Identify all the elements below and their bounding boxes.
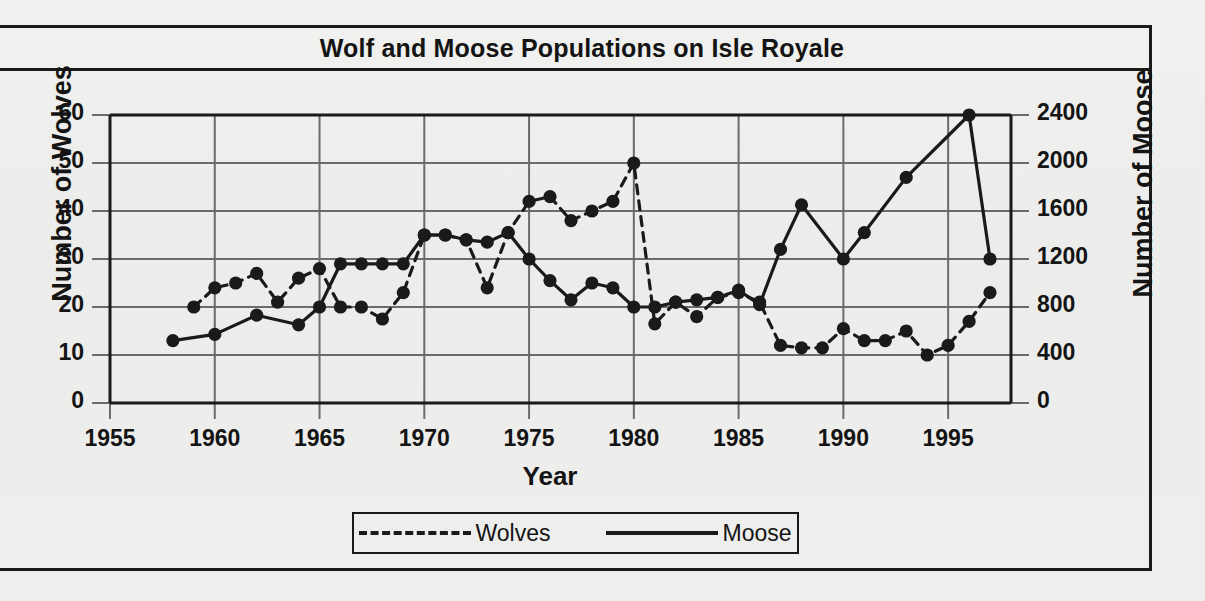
legend-label-moose: Moose	[722, 520, 791, 547]
legend-item-moose: Moose	[606, 520, 791, 547]
x-axis-tick-1970: 1970	[379, 425, 469, 452]
x-axis-tick-1990: 1990	[798, 425, 888, 452]
y-axis-left-tick-0: 0	[24, 387, 84, 414]
series-moose-line	[166, 108, 996, 347]
x-axis-tick-1980: 1980	[589, 425, 679, 452]
x-axis-tick-1960: 1960	[170, 425, 260, 452]
plot-area	[0, 0, 1205, 601]
chart-legend: Wolves Moose	[352, 512, 799, 554]
chart-canvas: Number of Wolves Number of Moose Year 01…	[0, 0, 1205, 601]
y-axis-left-tick-50: 50	[24, 147, 84, 174]
solid-line-swatch-icon	[606, 531, 718, 535]
y-axis-left-tick-10: 10	[24, 339, 84, 366]
y-axis-left-tick-40: 40	[24, 195, 84, 222]
y-axis-right-tick-2000: 2000	[1037, 147, 1117, 174]
x-axis-tick-1985: 1985	[694, 425, 784, 452]
y-axis-right-tick-1200: 1200	[1037, 243, 1117, 270]
legend-item-wolves: Wolves	[359, 520, 550, 547]
x-axis-tick-1975: 1975	[484, 425, 574, 452]
y-axis-right-tick-2400: 2400	[1037, 99, 1117, 126]
dashed-line-swatch-icon	[359, 531, 471, 535]
x-axis-tick-1965: 1965	[275, 425, 365, 452]
y-axis-left-tick-20: 20	[24, 291, 84, 318]
y-axis-left-tick-60: 60	[24, 99, 84, 126]
y-axis-right-tick-0: 0	[1037, 387, 1117, 414]
y-axis-right-tick-800: 800	[1037, 291, 1117, 318]
y-axis-right-tick-1600: 1600	[1037, 195, 1117, 222]
x-axis-tick-1955: 1955	[65, 425, 155, 452]
gridlines	[110, 115, 1011, 403]
y-axis-left-tick-30: 30	[24, 243, 84, 270]
axis-ticks	[92, 115, 1029, 419]
x-axis-tick-1995: 1995	[903, 425, 993, 452]
y-axis-right-tick-400: 400	[1037, 339, 1117, 366]
legend-label-wolves: Wolves	[475, 520, 550, 547]
